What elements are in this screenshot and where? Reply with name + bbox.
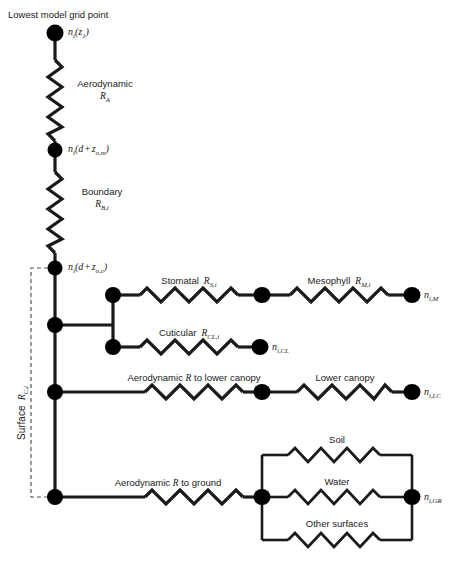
cuticular-name: Cuticular <box>159 327 197 338</box>
resistor-soil <box>288 448 380 462</box>
node-label-d-plus-z0m: ni(d + zo,m) <box>68 143 109 157</box>
resistor-aero-ground <box>145 490 243 504</box>
resistor-label-aerodynamic-RA: Aerodynamic RA <box>77 78 132 104</box>
resistor-label-mesophyll: Mesophyll RM,i <box>308 276 371 289</box>
mesophyll-name: Mesophyll <box>308 275 351 286</box>
node-ground-parallel-left <box>254 489 271 505</box>
stomatal-name: Stomatal <box>161 275 199 286</box>
node-stomatal-mesophyll-mid <box>254 287 271 303</box>
surface-bracket <box>31 268 55 497</box>
node-lower-canopy-end <box>404 384 421 400</box>
node-label-lower-canopy-end: ni,LC <box>424 386 441 400</box>
resistor-water <box>288 490 380 504</box>
resistor-stomatal <box>140 288 238 302</box>
node-canopy-junction <box>47 317 63 333</box>
aerodynamic-RA-symbol: RA <box>77 90 132 104</box>
diagram-canvas <box>0 0 451 562</box>
surface-resistance-bracket-label: Surface RC,i <box>16 386 29 440</box>
node-label-mesophyll-end: ni,M <box>424 289 438 303</box>
boundary-RB-name: Boundary <box>82 186 123 198</box>
resistor-label-lower-canopy: Lower canopy <box>315 373 374 384</box>
node-label-top: ni(z1) <box>68 26 89 40</box>
resistor-aero-lower-canopy <box>145 385 243 399</box>
node-top-grid-point <box>47 25 64 42</box>
lowest-model-grid-point-label: Lowest model grid point <box>8 10 108 21</box>
node-label-cuticular-end: ni,CL <box>272 341 289 355</box>
aero-lc-prefix: Aerodynamic <box>127 372 185 383</box>
resistance-network-diagram: Lowest model grid point ni(z1) Aerodynam… <box>0 0 451 562</box>
boundary-RB-symbol: RB,i <box>82 198 123 212</box>
node-label-ground-end: ni,GR <box>424 491 442 505</box>
resistor-aerodynamic-RA <box>48 60 62 141</box>
node-cuticular-end <box>252 339 269 355</box>
resistor-label-boundary-RB: Boundary RB,i <box>82 186 123 212</box>
resistor-label-stomatal: Stomatal RS,i <box>161 276 216 289</box>
node-ground-junction <box>47 489 63 505</box>
node-d-plus-z0c <box>48 261 63 276</box>
resistor-label-cuticular: Cuticular RCL,i <box>159 328 219 341</box>
resistor-label-aero-lower-canopy: Aerodynamic R to lower canopy <box>127 373 260 384</box>
node-mesophyll-end <box>404 287 421 303</box>
node-ground-end <box>404 489 421 505</box>
aero-ground-prefix: Aerodynamic <box>115 477 173 488</box>
aero-ground-suffix: to ground <box>179 477 222 488</box>
aero-lc-suffix: to lower canopy <box>191 372 260 383</box>
node-lower-canopy-junction <box>47 384 63 400</box>
resistor-label-water: Water <box>325 477 350 488</box>
aerodynamic-RA-name: Aerodynamic <box>77 78 132 90</box>
resistor-label-soil: Soil <box>329 435 345 446</box>
resistor-label-other-surfaces: Other surfaces <box>306 519 368 530</box>
surface-bracket-path <box>31 268 55 497</box>
node-label-d-plus-z0c: ni(d + zo,c) <box>68 261 107 275</box>
resistor-other-surfaces <box>288 533 380 547</box>
node-stomatal-branch <box>105 287 121 303</box>
resistor-label-aero-ground: Aerodynamic R to ground <box>115 478 222 489</box>
node-d-plus-z0m <box>48 143 63 158</box>
node-cuticular-branch <box>105 339 121 355</box>
resistor-boundary-RB <box>48 172 62 253</box>
surface-label-text: Surface <box>16 406 27 440</box>
resistor-cuticular <box>140 340 238 354</box>
node-lower-canopy-mid <box>254 384 271 400</box>
resistor-mesophyll <box>290 288 388 302</box>
resistor-lower-canopy <box>297 385 392 399</box>
